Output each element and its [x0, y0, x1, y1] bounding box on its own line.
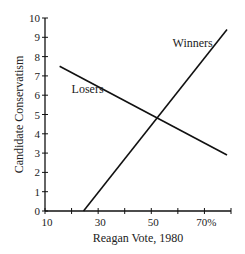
y-tick-label: 1 [35, 186, 41, 198]
x-axis-title: Reagan Vote, 1980 [93, 231, 184, 245]
x-tick-label: 10 [42, 216, 54, 228]
y-tick-label: 8 [35, 51, 41, 63]
y-tick-label: 10 [29, 12, 41, 24]
series-line-losers [60, 66, 227, 155]
y-tick-label: 0 [35, 205, 41, 217]
series-line-winners [84, 30, 227, 211]
y-tick-label: 9 [35, 31, 41, 43]
series-label-losers: Losers [72, 82, 104, 96]
x-tick-label: 50 [148, 216, 160, 228]
series-label-winners: Winners [173, 36, 214, 50]
y-tick-label: 5 [35, 109, 41, 121]
line-chart: 01234567891010305070%Reagan Vote, 1980Ca… [0, 0, 245, 254]
y-tick-label: 3 [35, 147, 41, 159]
y-tick-label: 7 [35, 70, 41, 82]
x-tick-label: 30 [95, 216, 107, 228]
y-axis-title: Candidate Conservatism [12, 55, 26, 173]
y-tick-label: 6 [35, 89, 41, 101]
y-tick-label: 2 [35, 166, 41, 178]
y-tick-label: 4 [35, 128, 41, 140]
x-tick-label: 70% [196, 216, 216, 228]
